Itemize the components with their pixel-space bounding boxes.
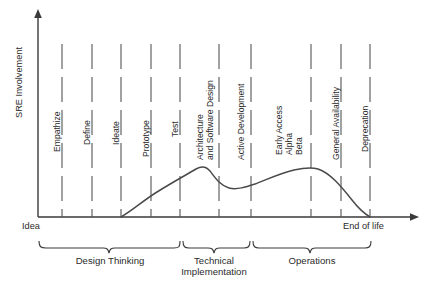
phase-label-deprecation: Deprecation bbox=[361, 106, 371, 152]
brace-technical-implementation bbox=[183, 241, 250, 253]
y-axis-arrow-icon bbox=[34, 9, 42, 18]
phase-label-test: Test bbox=[171, 121, 181, 137]
phase-label-ideate: Ideate bbox=[112, 121, 122, 145]
sre-involvement-curve bbox=[121, 167, 370, 217]
phase-label-prototype: Prototype bbox=[142, 120, 152, 157]
phase-label-architecture-and-software-design: Architecture and Software Design bbox=[196, 80, 216, 160]
phase-label-general-availability: General Availability bbox=[332, 87, 342, 160]
group-label-design-thinking-line1: Design Thinking bbox=[76, 255, 145, 266]
axis-start-label-idea: Idea bbox=[22, 221, 40, 231]
brace-operations bbox=[253, 241, 371, 253]
phase-label-active-development: Active Development bbox=[237, 84, 247, 160]
phase-label-empathize: Empathize bbox=[53, 111, 63, 152]
phase-label-define: Define bbox=[83, 120, 93, 145]
y-axis-title: SRE Involvement bbox=[14, 47, 24, 118]
sre-involvement-lifecycle-diagram: SRE Involvement Empathize Define Ideate … bbox=[0, 0, 431, 291]
group-label-design-thinking: Design Thinking bbox=[64, 256, 156, 267]
group-label-technical-line2: Implementation bbox=[168, 267, 260, 278]
group-label-operations: Operations bbox=[266, 256, 358, 267]
phase-label-beta: Beta bbox=[295, 106, 305, 155]
brace-design-thinking bbox=[39, 241, 180, 253]
group-label-technical-line1: Technical bbox=[194, 255, 234, 266]
group-label-operations-line1: Operations bbox=[289, 255, 336, 266]
x-axis-arrow-icon bbox=[410, 213, 419, 221]
phase-label-early-access-alpha-beta: Early Access Alpha Beta bbox=[275, 106, 305, 155]
phase-label-architecture-line2: and Software Design bbox=[206, 80, 216, 160]
axis-end-label-end-of-life: End of life bbox=[343, 221, 384, 231]
group-label-technical-implementation: Technical Implementation bbox=[168, 256, 260, 277]
